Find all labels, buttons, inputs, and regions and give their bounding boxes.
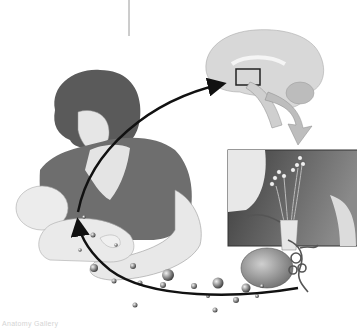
figure-caption: Anatomy Gallery: [2, 320, 58, 327]
cerebellum: [286, 82, 314, 104]
breastfeeding-reflex-diagram: [0, 0, 357, 333]
pituitary-stalk: [280, 220, 298, 250]
anterior-pituitary: [241, 248, 293, 288]
brain-section: [206, 30, 324, 128]
